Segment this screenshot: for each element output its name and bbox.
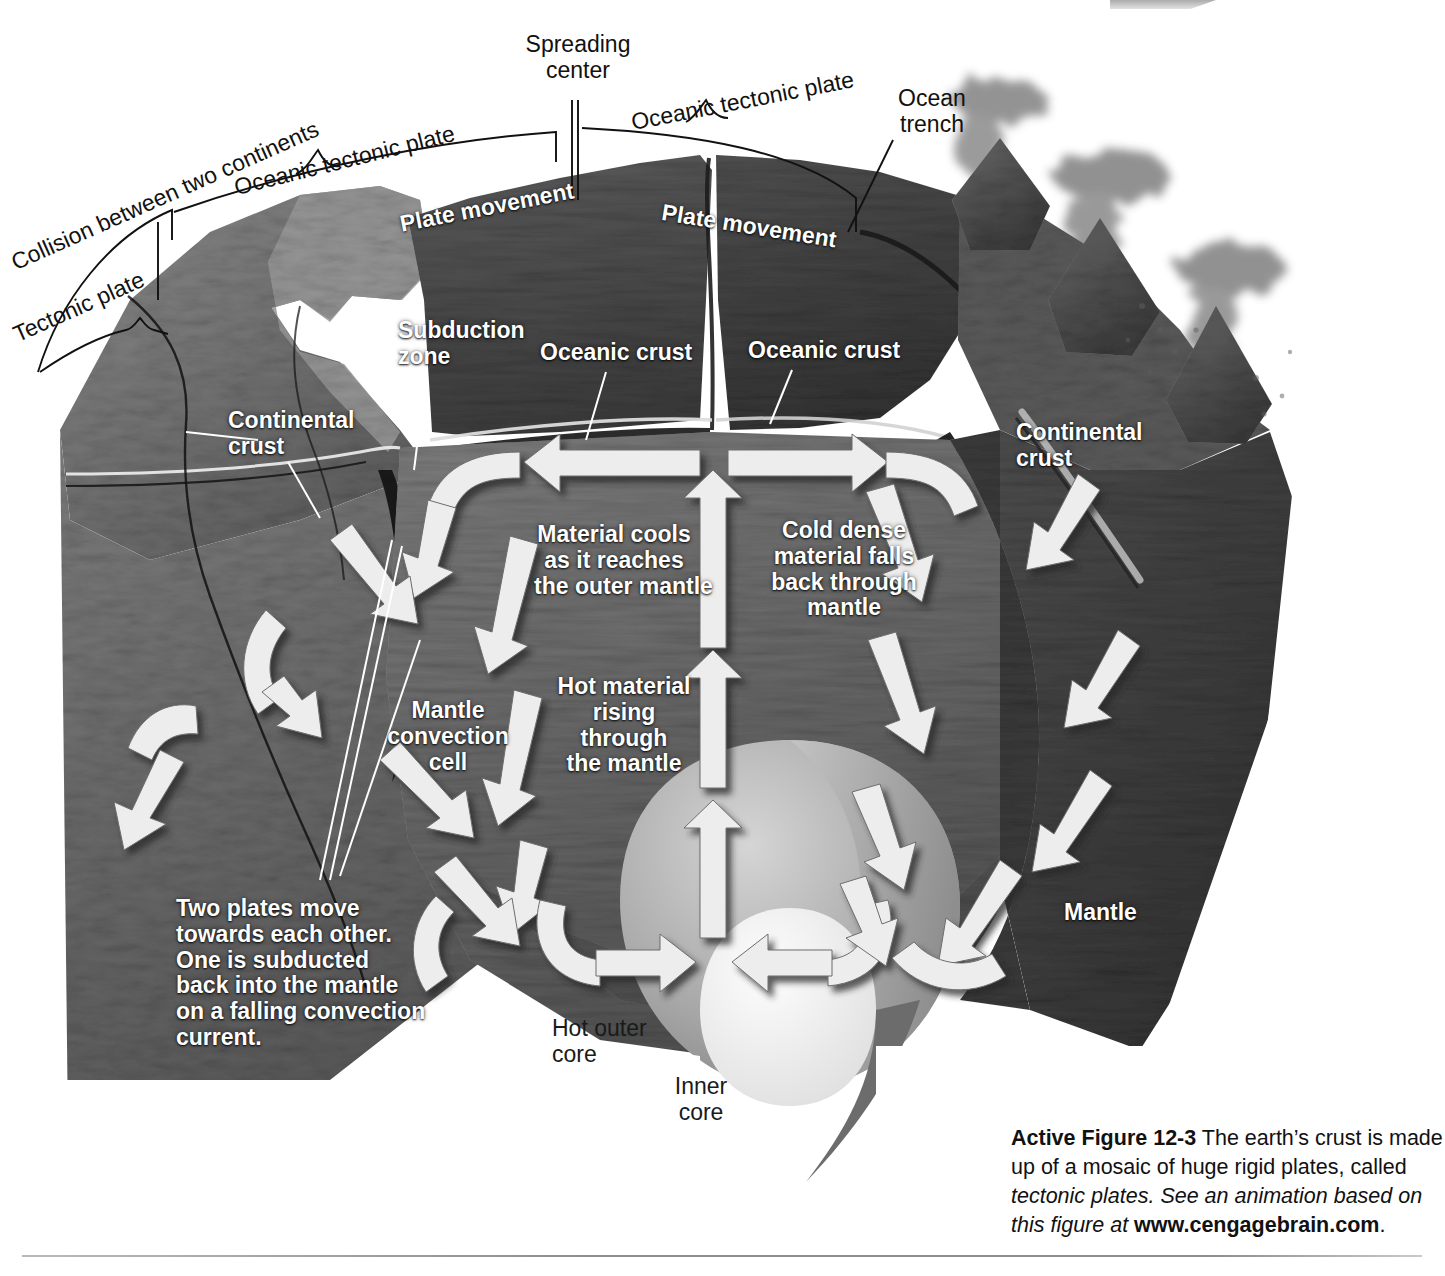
caption-period: . bbox=[1379, 1213, 1385, 1237]
label-continental-crust-left: Continental crust bbox=[228, 408, 355, 460]
label-oceanic-crust-right: Oceanic crust bbox=[748, 338, 900, 364]
figure-plate-tectonics: Collision between two continents Tectoni… bbox=[0, 0, 1445, 1276]
label-hot-outer-core: Hot outer core bbox=[552, 1016, 647, 1068]
figure-caption: Active Figure 12-3 The earth’s crust is … bbox=[1011, 1124, 1445, 1240]
label-material-cools: Material cools as it reaches the outer m… bbox=[534, 522, 694, 599]
caption-figure-number: Active Figure 12-3 bbox=[1011, 1126, 1196, 1150]
label-continental-crust-right: Continental crust bbox=[1016, 420, 1143, 472]
label-mantle-convection-cell: Mantle convection cell bbox=[384, 698, 512, 775]
volcano-plume-3 bbox=[1176, 242, 1284, 364]
callout-ocean-trench: Ocean trench bbox=[884, 86, 980, 138]
label-oceanic-crust-left: Oceanic crust bbox=[540, 340, 692, 366]
caption-italic-1: tectonic plates. bbox=[1011, 1184, 1154, 1208]
label-two-plates-move: Two plates move towards each other. One … bbox=[176, 896, 425, 1051]
label-mantle: Mantle bbox=[1064, 900, 1137, 926]
label-cold-dense-material-falls: Cold dense material falls back through m… bbox=[766, 518, 922, 621]
page-divider-rule bbox=[22, 1255, 1422, 1257]
label-subduction-zone: Subduction zone bbox=[398, 318, 524, 370]
callout-spreading-center: Spreading center bbox=[518, 32, 638, 84]
caption-url: www.cengagebrain.com bbox=[1134, 1213, 1379, 1237]
label-hot-material-rising: Hot material rising through the mantle bbox=[554, 674, 694, 777]
label-inner-core: Inner core bbox=[666, 1074, 736, 1126]
